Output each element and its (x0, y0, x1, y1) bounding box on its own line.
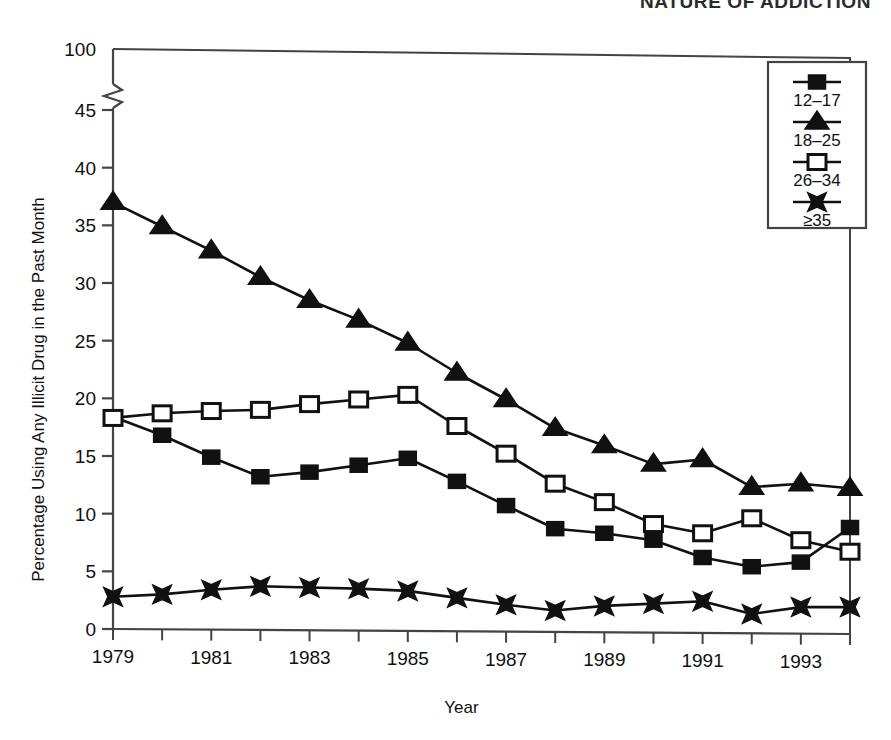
legend-item-label: 18–25 (793, 131, 840, 150)
marker-open-square (301, 397, 319, 412)
series-line (113, 202, 850, 488)
line-chart-figure: 0510152025303540451001979198119831985198… (0, 0, 891, 740)
marker-filled-square (350, 458, 367, 472)
series-3 (104, 387, 859, 559)
series-line (113, 395, 850, 552)
marker-open-square (595, 495, 613, 510)
y-tick-label: 5 (85, 561, 96, 582)
x-tick-label: 1993 (780, 651, 822, 672)
y-axis-title: Percentage Using Any Illicit Drug in the… (29, 197, 48, 582)
x-tick-label: 1979 (92, 646, 134, 667)
marker-filled-triangle (789, 473, 813, 491)
marker-filled-triangle (543, 417, 567, 435)
marker-filled-triangle (150, 215, 174, 233)
marker-filled-triangle (740, 476, 764, 494)
series-4 (104, 577, 860, 624)
y-tick-label: 20 (75, 388, 96, 409)
marker-open-square (546, 476, 564, 491)
marker-open-square (808, 155, 826, 170)
marker-filled-square (448, 474, 465, 488)
x-tick-label: 1989 (583, 649, 625, 670)
marker-filled-square (743, 560, 760, 574)
marker-filled-triangle (494, 388, 518, 406)
marker-filled-square (203, 450, 220, 464)
plot-frame-top-right (113, 49, 850, 634)
chart-canvas: 0510152025303540451001979198119831985198… (0, 0, 891, 740)
y-tick-label: 15 (75, 446, 96, 467)
marker-filled-square (694, 550, 711, 564)
marker-open-square (153, 406, 171, 421)
axes-group: 0510152025303540451001979198119831985198… (29, 39, 850, 717)
marker-filled-triangle (691, 448, 715, 466)
legend-item-label: ≥35 (803, 211, 831, 230)
y-tick-label: 30 (75, 273, 96, 294)
x-tick-label: 1983 (288, 647, 330, 668)
legend: 12–1718–2526–34≥35 (768, 62, 866, 230)
marker-open-square (202, 404, 220, 419)
marker-open-square (448, 419, 466, 434)
marker-filled-square (792, 555, 809, 569)
y-tick-label: 0 (85, 619, 96, 640)
y-tick-label: 45 (75, 100, 96, 121)
marker-filled-triangle (199, 240, 223, 258)
marker-open-square (841, 544, 859, 559)
marker-open-square (497, 446, 515, 461)
series-line (113, 586, 850, 614)
marker-open-square (792, 533, 810, 548)
marker-open-square (644, 517, 662, 532)
marker-filled-square (252, 470, 269, 484)
marker-open-square (743, 511, 761, 526)
marker-open-square (694, 526, 712, 541)
marker-filled-triangle (298, 289, 322, 307)
marker-filled-triangle (248, 266, 272, 284)
marker-filled-square (547, 522, 564, 536)
x-tick-label: 1987 (485, 649, 527, 670)
marker-open-square (104, 410, 122, 425)
x-tick-label: 1991 (681, 650, 723, 671)
y-tick-label: 40 (75, 158, 96, 179)
y-tick-label: 35 (75, 215, 96, 236)
marker-filled-square (596, 526, 613, 540)
marker-filled-square (301, 465, 318, 479)
figure-page: NATURE OF ADDICTION 05101520253035404510… (0, 0, 891, 740)
y-tick-label: 100 (64, 39, 96, 60)
x-tick-label: 1985 (387, 648, 429, 669)
marker-open-square (399, 387, 417, 402)
marker-filled-triangle (101, 191, 125, 209)
y-axis-break-symbol (104, 84, 122, 108)
marker-filled-triangle (396, 332, 420, 350)
marker-filled-square (645, 533, 662, 547)
marker-open-square (251, 402, 269, 417)
marker-filled-square (498, 499, 515, 513)
marker-open-square (350, 392, 368, 407)
marker-filled-square (399, 451, 416, 465)
x-tick-label: 1981 (190, 647, 232, 668)
legend-item-label: 26–34 (793, 171, 840, 190)
x-axis-spine (113, 629, 850, 634)
y-tick-label: 25 (75, 331, 96, 352)
marker-filled-square (842, 521, 859, 535)
marker-filled-triangle (445, 362, 469, 380)
marker-filled-square (809, 75, 826, 89)
legend-item-label: 12–17 (793, 91, 840, 110)
y-tick-label: 10 (75, 504, 96, 525)
marker-filled-square (154, 428, 171, 442)
x-axis-title: Year (444, 698, 479, 717)
